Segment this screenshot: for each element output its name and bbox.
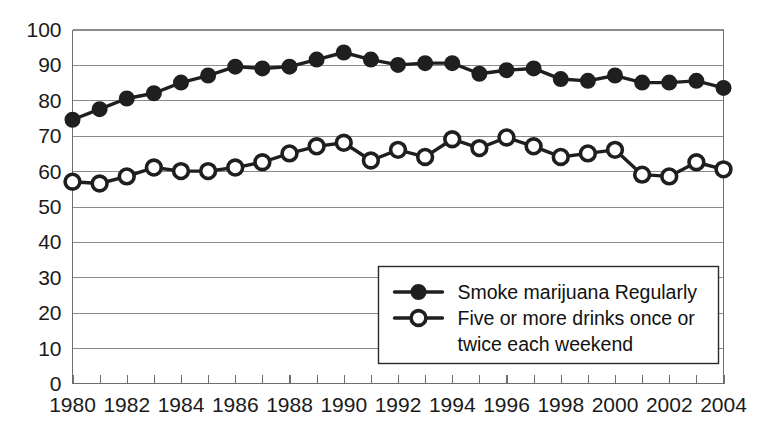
data-point bbox=[391, 142, 406, 157]
data-point bbox=[716, 162, 731, 177]
y-tick-label: 50 bbox=[38, 195, 61, 218]
data-point bbox=[418, 56, 432, 70]
x-tick-label: 1996 bbox=[483, 393, 530, 416]
x-tick-label: 1982 bbox=[103, 393, 150, 416]
data-point bbox=[309, 52, 323, 66]
x-tick-label: 1998 bbox=[537, 393, 584, 416]
data-point bbox=[716, 81, 730, 95]
y-tick-label: 90 bbox=[38, 53, 61, 76]
y-tick-label: 40 bbox=[38, 230, 61, 253]
data-point bbox=[228, 59, 242, 73]
x-tick-label: 1984 bbox=[158, 393, 205, 416]
legend-marker-open-circle-icon bbox=[411, 311, 426, 326]
data-point bbox=[635, 167, 650, 182]
x-tick-label: 1980 bbox=[49, 393, 96, 416]
series-marijuana bbox=[65, 45, 730, 127]
x-tick-label: 2004 bbox=[700, 393, 747, 416]
data-point bbox=[418, 150, 433, 165]
data-point bbox=[472, 141, 487, 156]
data-point bbox=[553, 150, 568, 165]
y-tick-label: 100 bbox=[26, 18, 61, 41]
data-point bbox=[65, 113, 79, 127]
y-tick-label: 20 bbox=[38, 301, 61, 324]
line-chart: 0102030405060708090100 19801982198419861… bbox=[0, 0, 776, 436]
x-tick-label: 1992 bbox=[375, 393, 422, 416]
data-point bbox=[119, 169, 134, 184]
data-series-group bbox=[65, 45, 731, 191]
data-point bbox=[364, 52, 378, 66]
y-tick-label: 30 bbox=[38, 266, 61, 289]
x-tick-label: 2000 bbox=[592, 393, 639, 416]
data-point bbox=[174, 164, 189, 179]
x-tick-label: 1986 bbox=[212, 393, 259, 416]
data-point bbox=[309, 139, 324, 154]
x-axis-tick-labels: 1980198219841986198819901992199419961998… bbox=[49, 393, 747, 416]
legend-label: Smoke marijuana Regularly bbox=[458, 281, 698, 303]
data-point bbox=[526, 61, 540, 75]
data-point bbox=[228, 160, 243, 175]
data-point bbox=[337, 45, 351, 59]
data-point bbox=[92, 102, 106, 116]
data-point bbox=[363, 153, 378, 168]
x-tick-label: 1990 bbox=[320, 393, 367, 416]
data-point bbox=[662, 75, 676, 89]
data-point bbox=[147, 86, 161, 100]
data-point bbox=[445, 132, 460, 147]
data-point bbox=[282, 59, 296, 73]
data-point bbox=[391, 58, 405, 72]
data-point bbox=[120, 91, 134, 105]
data-point bbox=[255, 61, 269, 75]
series-binge-drinking bbox=[65, 130, 731, 191]
data-point bbox=[689, 74, 703, 88]
data-point bbox=[581, 74, 595, 88]
data-point bbox=[92, 176, 107, 191]
data-point bbox=[255, 155, 270, 170]
data-point bbox=[554, 72, 568, 86]
y-axis-tick-labels: 0102030405060708090100 bbox=[26, 18, 61, 395]
data-point bbox=[689, 155, 704, 170]
data-point bbox=[662, 169, 677, 184]
legend-marker-filled-circle-icon bbox=[411, 285, 425, 299]
data-point bbox=[499, 130, 514, 145]
data-point bbox=[174, 75, 188, 89]
y-tick-label: 10 bbox=[38, 337, 61, 360]
x-tick-label: 2002 bbox=[646, 393, 693, 416]
x-tick-label: 1994 bbox=[429, 393, 476, 416]
y-tick-label: 80 bbox=[38, 89, 61, 112]
data-point bbox=[146, 160, 161, 175]
data-point bbox=[526, 139, 541, 154]
data-point bbox=[472, 67, 486, 81]
x-tick-label: 1988 bbox=[266, 393, 313, 416]
data-point bbox=[445, 56, 459, 70]
data-point bbox=[65, 174, 80, 189]
data-point bbox=[201, 68, 215, 82]
data-point bbox=[282, 146, 297, 161]
data-point bbox=[635, 75, 649, 89]
y-tick-label: 70 bbox=[38, 124, 61, 147]
data-point bbox=[580, 146, 595, 161]
legend-label: Five or more drinks once or bbox=[458, 307, 696, 329]
data-point bbox=[201, 164, 216, 179]
data-point bbox=[499, 63, 513, 77]
data-point bbox=[608, 142, 623, 157]
y-tick-label: 60 bbox=[38, 160, 61, 183]
data-point bbox=[336, 135, 351, 150]
chart-legend: Smoke marijuana RegularlyFive or more dr… bbox=[379, 267, 719, 364]
legend-label-line2: twice each weekend bbox=[458, 333, 634, 355]
chart-container: 0102030405060708090100 19801982198419861… bbox=[0, 0, 776, 436]
data-point bbox=[608, 68, 622, 82]
x-axis-tickmarks bbox=[73, 375, 724, 384]
